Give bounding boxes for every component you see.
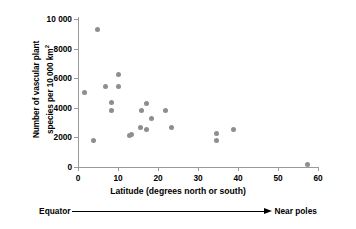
data-point — [91, 138, 96, 143]
x-axis-tick — [198, 167, 199, 171]
x-axis-tick-label: 0 — [76, 173, 81, 183]
right-arrow-icon — [72, 208, 272, 215]
data-point — [116, 72, 121, 77]
y-axis-tick — [74, 108, 78, 109]
y-axis-tick-label: 10 000 — [47, 14, 72, 24]
data-point — [109, 108, 114, 113]
y-axis-tick-label: 4000 — [54, 103, 72, 113]
x-axis-tick-label: 60 — [313, 173, 322, 183]
annotation-label-equator: Equator — [39, 206, 70, 216]
x-axis-tick — [118, 167, 119, 171]
data-point — [169, 125, 174, 130]
y-axis-tick — [74, 137, 78, 138]
x-axis-tick-label: 50 — [273, 173, 282, 183]
data-point — [103, 84, 108, 89]
data-point — [116, 84, 121, 89]
data-point — [144, 101, 149, 106]
x-axis-tick — [158, 167, 159, 171]
y-axis-tick-label: 6000 — [54, 73, 72, 83]
y-axis-tick-label: 2000 — [54, 132, 72, 142]
x-axis-tick — [278, 167, 279, 171]
y-axis-title: Number of vascular plant species per 10 … — [0, 0, 34, 175]
x-axis-tick — [318, 167, 319, 171]
y-axis-tick — [74, 19, 78, 20]
y-axis-tick-label: 0 — [67, 162, 72, 172]
data-point — [82, 90, 87, 95]
annotation-label-near-poles: Near poles — [274, 206, 316, 216]
data-point — [214, 138, 219, 143]
x-axis-tick — [238, 167, 239, 171]
data-point — [95, 27, 100, 32]
plot-area: 0200040006000800010 0000102030405060 — [78, 19, 318, 167]
y-axis-title-line2: species per 10 000 km2 — [42, 7, 55, 172]
y-axis-title-line2-text: species per 10 000 km — [44, 48, 54, 134]
x-axis-tick-label: 30 — [193, 173, 202, 183]
data-point — [305, 162, 310, 167]
y-axis-tick — [74, 78, 78, 79]
data-point — [163, 108, 168, 113]
data-point — [144, 127, 149, 132]
x-axis-tick-label: 10 — [113, 173, 122, 183]
data-point — [139, 108, 144, 113]
x-axis-tick-label: 40 — [233, 173, 242, 183]
data-point — [149, 116, 154, 121]
x-axis-title: Latitude (degrees north or south) — [0, 186, 356, 196]
data-point — [138, 125, 143, 130]
y-axis-title-superscript: 2 — [44, 45, 50, 48]
y-axis-tick-label: 8000 — [54, 44, 72, 54]
data-point — [231, 127, 236, 132]
scatter-plot-figure: Number of vascular plant species per 10 … — [0, 0, 356, 229]
data-point — [214, 131, 219, 136]
x-axis-tick — [78, 167, 79, 171]
data-point — [129, 132, 134, 137]
data-point — [109, 100, 114, 105]
y-axis-title-line1: Number of vascular plant — [31, 7, 42, 172]
direction-annotation: Equator Near poles — [0, 203, 356, 219]
y-axis-tick — [74, 49, 78, 50]
x-axis-tick-label: 20 — [153, 173, 162, 183]
